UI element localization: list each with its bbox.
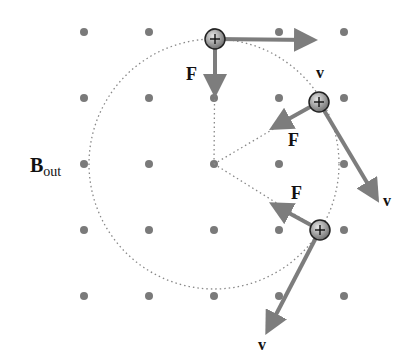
positive-charge-icon	[309, 92, 329, 112]
field-dot-icon	[340, 226, 348, 234]
field-dot-icon	[80, 28, 88, 36]
field-dot-icon	[340, 160, 348, 168]
field-label-subscript: out	[43, 164, 61, 179]
force-label: F	[186, 64, 197, 84]
velocity-arrow-icon	[269, 230, 320, 328]
field-dot-icon	[275, 94, 283, 102]
field-label-b: B	[30, 154, 43, 176]
radius-lines	[214, 39, 320, 230]
field-dot-icon	[145, 28, 153, 36]
positive-charge-icon	[310, 220, 330, 240]
field-dot-icon	[275, 28, 283, 36]
velocity-label: v	[258, 336, 266, 353]
field-dot-icon	[145, 160, 153, 168]
field-dot-icon	[275, 160, 283, 168]
field-label-b-out: Bout	[30, 154, 61, 179]
force-label: F	[288, 130, 299, 150]
field-dot-icon	[80, 160, 88, 168]
velocity-arrow-icon	[319, 102, 375, 196]
field-dot-icon	[210, 292, 218, 300]
field-dot-icon	[275, 226, 283, 234]
velocity-label: v	[383, 192, 391, 209]
field-dot-icon	[340, 292, 348, 300]
field-dot-icon	[80, 94, 88, 102]
field-dot-icon	[340, 28, 348, 36]
field-dot-icon	[80, 226, 88, 234]
velocity-label: v	[316, 64, 324, 81]
vector-labels: vFvFvF	[186, 64, 391, 353]
field-dot-icon	[80, 292, 88, 300]
field-dot-icon	[145, 292, 153, 300]
diagram-canvas: vFvFvF Bout	[0, 0, 416, 358]
field-dot-icon	[275, 292, 283, 300]
field-dot-icon	[340, 94, 348, 102]
magnetic-force-diagram: vFvFvF Bout	[0, 0, 416, 358]
velocity-arrow-icon	[215, 39, 310, 40]
field-dot-icon	[210, 226, 218, 234]
field-dot-icon	[145, 226, 153, 234]
force-label: F	[291, 183, 302, 203]
field-dot-icon	[145, 94, 153, 102]
positive-charge-icon	[205, 29, 225, 49]
particles	[205, 29, 330, 240]
